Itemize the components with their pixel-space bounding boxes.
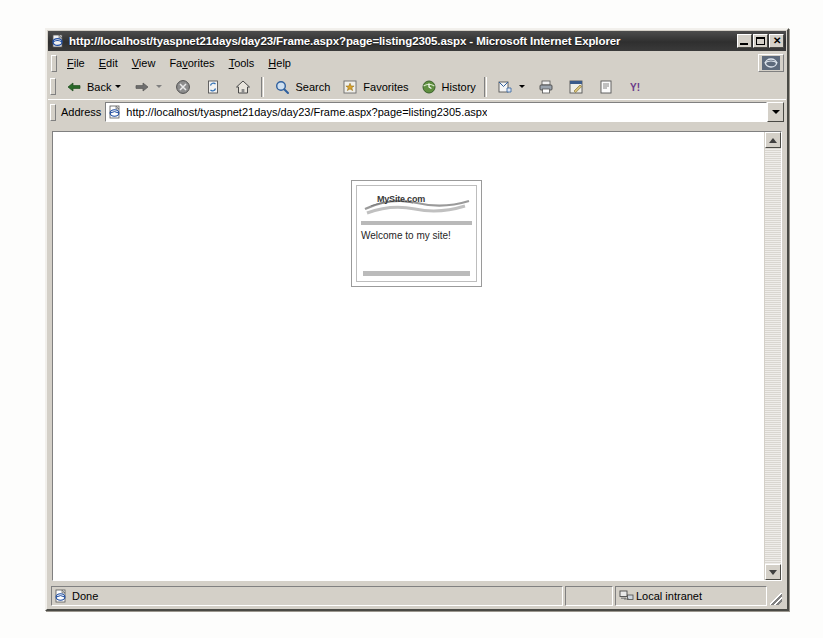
status-panel-secondary [565, 586, 613, 606]
edit-page-icon [566, 77, 586, 97]
forward-history-chevron-down-icon[interactable] [156, 85, 162, 88]
back-history-chevron-down-icon[interactable] [115, 85, 121, 88]
history-button-label: History [442, 81, 476, 93]
document-viewport[interactable]: MySite.com Welcome to my site! [53, 132, 764, 580]
history-button[interactable]: History [414, 76, 481, 98]
arrow-right-icon [132, 77, 152, 97]
vertical-scrollbar[interactable] [764, 132, 781, 580]
address-bar: Address http://localhost/tyaspnet21days/… [48, 101, 786, 123]
menu-item-edit[interactable]: Edit [92, 55, 125, 71]
frame-content-body: Welcome to my site! [361, 225, 472, 271]
edit-page-button[interactable] [561, 76, 591, 98]
scrollbar-track[interactable] [765, 148, 781, 564]
arrow-left-icon [64, 77, 84, 97]
window-controls: ✕ [731, 34, 784, 48]
toolbar-gripper[interactable] [50, 78, 56, 95]
favorites-button-label: Favorites [363, 81, 408, 93]
search-button-label: Search [295, 81, 330, 93]
security-zone-text: Local intranet [636, 590, 702, 602]
toolbar-separator-2 [484, 77, 487, 97]
history-clock-icon [419, 77, 439, 97]
menu-item-view[interactable]: View [125, 55, 163, 71]
resize-grip[interactable] [769, 586, 783, 606]
stop-button[interactable] [168, 76, 198, 98]
refresh-icon [203, 77, 223, 97]
menu-item-help[interactable]: Help [261, 55, 298, 71]
security-zone-panel[interactable]: Local intranet [615, 586, 767, 606]
search-button[interactable]: Search [267, 76, 335, 98]
status-bar: Done Local intranet [51, 586, 783, 606]
ie-animated-logo-icon [758, 54, 784, 72]
ie-document-icon [51, 34, 65, 48]
local-intranet-icon [619, 589, 634, 606]
minimize-button[interactable] [737, 34, 752, 48]
toolbar-separator [261, 77, 264, 97]
print-button[interactable] [531, 76, 561, 98]
refresh-button[interactable] [198, 76, 228, 98]
scroll-up-arrow-icon[interactable] [765, 132, 781, 148]
mysite-swoosh-logo: MySite.com [361, 189, 472, 225]
discuss-button[interactable] [591, 76, 621, 98]
ie-document-icon [108, 105, 122, 119]
address-url-text: http://localhost/tyaspnet21days/day23/Fr… [126, 106, 487, 118]
status-message-panel: Done [51, 586, 563, 606]
frame-horizontal-rule [363, 271, 470, 276]
menu-item-favorites[interactable]: Favorites [162, 55, 221, 71]
menu-bar: File Edit View Favorites Tools Help [48, 53, 786, 73]
search-icon [272, 77, 292, 97]
welcome-message: Welcome to my site! [361, 230, 453, 243]
address-input[interactable]: http://localhost/tyaspnet21days/day23/Fr… [105, 102, 767, 122]
status-text: Done [72, 590, 98, 602]
browser-client-area: MySite.com Welcome to my site! [52, 131, 782, 581]
home-button[interactable] [228, 76, 258, 98]
svg-text:Y!: Y! [630, 82, 640, 93]
chevron-down-icon [772, 110, 780, 114]
forward-button[interactable] [127, 76, 168, 98]
navigation-toolbar: Back [48, 74, 786, 100]
menu-item-file[interactable]: File [60, 55, 92, 71]
ie-document-icon [54, 589, 68, 603]
content-frame[interactable]: MySite.com Welcome to my site! [351, 180, 482, 287]
messenger-button[interactable]: Y! [621, 76, 651, 98]
address-dropdown-button[interactable] [767, 102, 784, 122]
close-button[interactable]: ✕ [769, 34, 784, 48]
home-icon [233, 77, 253, 97]
mysite-logo-text: MySite.com [377, 194, 425, 204]
address-bar-gripper[interactable] [50, 104, 56, 121]
discuss-icon [596, 77, 616, 97]
print-icon [536, 77, 556, 97]
window-title: http://localhost/tyaspnet21days/day23/Fr… [69, 35, 731, 47]
back-button-label: Back [87, 81, 111, 93]
menu-item-tools[interactable]: Tools [222, 55, 262, 71]
scroll-down-arrow-icon[interactable] [765, 564, 781, 580]
mail-icon [495, 77, 515, 97]
frame-inner-page: MySite.com Welcome to my site! [356, 185, 477, 282]
favorites-star-icon [340, 77, 360, 97]
back-button[interactable]: Back [59, 76, 127, 98]
messenger-icon: Y! [626, 77, 646, 97]
stop-icon [173, 77, 193, 97]
mail-chevron-down-icon[interactable] [519, 85, 525, 88]
address-label: Address [59, 106, 105, 118]
menu-bar-gripper[interactable] [51, 55, 57, 72]
title-bar[interactable]: http://localhost/tyaspnet21days/day23/Fr… [48, 31, 786, 51]
favorites-button[interactable]: Favorites [335, 76, 413, 98]
browser-window: http://localhost/tyaspnet21days/day23/Fr… [45, 28, 789, 611]
maximize-button[interactable] [753, 34, 768, 48]
mail-button[interactable] [490, 76, 531, 98]
scanned-page-background: http://localhost/tyaspnet21days/day23/Fr… [0, 0, 823, 638]
